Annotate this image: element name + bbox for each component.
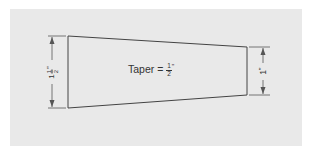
right-dimension-value: 1 (258, 70, 268, 75)
left-arrow-up-icon (50, 37, 55, 44)
left-dimension-label: 112" (46, 59, 59, 87)
right-dimension-unit: " (258, 67, 265, 70)
taper-label: Taper = 12" (128, 63, 174, 77)
right-arrow-down-icon (261, 87, 266, 94)
right-arrow-up-icon (261, 48, 266, 55)
left-arrow-down-icon (50, 100, 55, 107)
left-dimension-whole: 1 (47, 74, 56, 78)
right-dimension-label: 1" (258, 61, 268, 81)
taper-unit: " (172, 63, 175, 70)
taper-text: Taper = (128, 63, 166, 75)
left-dimension-unit: " (46, 66, 53, 69)
taper-denominator: 2 (166, 71, 172, 78)
left-dimension-denominator: 2 (53, 70, 59, 73)
left-dimension-numerator: 1 (46, 70, 53, 73)
